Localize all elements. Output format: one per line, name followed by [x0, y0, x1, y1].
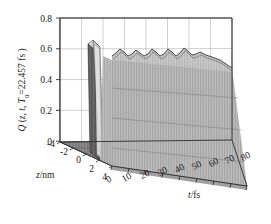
q-tick-1: 0.6 — [40, 44, 52, 54]
z-axis-unit: /nm — [40, 170, 55, 180]
q-tick-2: 0.4 — [40, 75, 52, 85]
svg-text:z/nm: z/nm — [35, 170, 55, 180]
z-axis-title: z/nm — [35, 170, 55, 180]
surface-plot-canvas: 0.8 0.6 0.4 0.2 0 -4 -2 0 2 4 z/nm — [0, 0, 271, 224]
z-tick-3: 2 — [89, 164, 94, 174]
q-tick-0: 0.8 — [40, 14, 52, 24]
z-tick-0: -4 — [47, 139, 55, 149]
t-axis-title: t/fs — [188, 190, 200, 200]
figure-root: 0.8 0.6 0.4 0.2 0 -4 -2 0 2 4 z/nm — [0, 0, 271, 224]
q-axis-tick-labels: 0.8 0.6 0.4 0.2 0 — [40, 14, 52, 147]
svg-text:t/fs: t/fs — [188, 190, 200, 200]
q-equals-value: =22.457 fs — [17, 54, 27, 95]
q-tick-3: 0.2 — [40, 106, 52, 116]
q-close: ) — [17, 48, 28, 54]
q-axis-title: Q (z, t, T0=22.457 fs ) — [17, 48, 30, 131]
svg-text:Q (z, t, T0=22.457 fs ): Q (z, t, T0=22.457 fs ) — [17, 48, 30, 131]
t-tick-0: 0 — [104, 174, 113, 185]
t-axis-unit: /fs — [191, 190, 201, 200]
z-tick-2: 0 — [76, 155, 81, 165]
q-axis-ticks — [56, 18, 60, 141]
z-tick-1: -2 — [60, 147, 68, 157]
